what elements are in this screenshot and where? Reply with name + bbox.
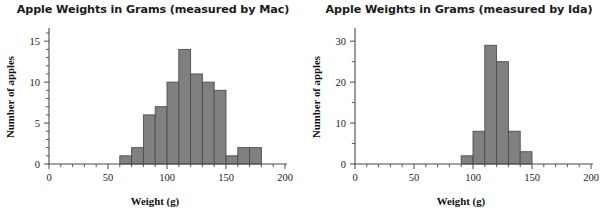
chart-panel-mac: Apple Weights in Grams (measured by Mac)… [0,0,306,220]
histogram-bar [214,90,226,164]
histogram-bar [132,148,144,164]
histogram-bar [473,131,485,164]
axes-ida [350,28,593,169]
y-tick-label: 15 [30,36,41,47]
y-tick-label: 20 [336,77,347,88]
histogram-bar [485,45,497,164]
histogram-bar [202,82,214,164]
histogram-bar [520,152,532,164]
histogram-bar [226,156,238,164]
plot-svg-ida: 0501001502000102030 Weight (g) Number of… [306,0,612,220]
histogram-bar [191,74,203,164]
x-tick-label: 150 [524,172,540,183]
x-tick-label: 0 [46,172,51,183]
x-tick-label: 100 [159,172,175,183]
histogram-bar [120,156,132,164]
histogram-bar [497,62,509,164]
histogram-bar [155,107,167,164]
histogram-bar [461,156,473,164]
chart-panel-ida: Apple Weights in Grams (measured by Ida)… [306,0,612,220]
histogram-bar [508,131,520,164]
y-tick-label: 10 [336,118,347,129]
y-tick-label: 0 [35,159,40,170]
plot-area-mac: 050100150200051015 Weight (g) Number of … [0,0,306,220]
y-axis-label-mac: Number of apples [4,56,16,138]
x-tick-label: 100 [465,172,481,183]
x-tick-label: 200 [583,172,599,183]
x-tick-label: 150 [218,172,234,183]
plot-svg-mac: 050100150200051015 Weight (g) Number of … [0,0,306,220]
y-tick-label: 30 [336,36,347,47]
y-tick-label: 5 [35,118,40,129]
bar-series-ida [461,45,532,164]
plot-area-ida: 0501001502000102030 Weight (g) Number of… [306,0,612,220]
histogram-figure: Apple Weights in Grams (measured by Mac)… [0,0,612,220]
histogram-bar [250,148,262,164]
x-axis-label-ida: Weight (g) [437,195,486,208]
histogram-bar [143,115,155,164]
histogram-bar [238,148,250,164]
x-tick-label: 0 [352,172,357,183]
bar-series-mac [120,49,262,164]
histogram-bar [167,82,179,164]
y-tick-label: 0 [341,159,346,170]
y-tick-label: 10 [30,77,41,88]
x-tick-label: 50 [103,172,114,183]
x-axis-label-mac: Weight (g) [131,195,180,208]
x-tick-label: 50 [409,172,420,183]
histogram-bar [179,49,191,164]
x-tick-label: 200 [277,172,293,183]
y-axis-label-ida: Number of apples [310,56,322,138]
